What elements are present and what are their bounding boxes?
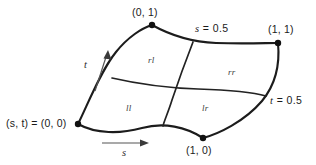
label-cell-lower-left: ll — [126, 104, 132, 113]
label-cell-lower-right: lr — [202, 104, 209, 113]
s-axis-arrow-head — [140, 140, 149, 147]
t-axis-arrow-shaft — [95, 57, 106, 91]
label-isoline-s-half: s = 0.5 — [195, 23, 228, 35]
label-cell-upper-right: rr — [228, 68, 236, 77]
label-cell-upper-left: rl — [148, 56, 155, 65]
label-origin: (s, t) = (0, 0) — [6, 118, 66, 129]
t-axis-arrow-head — [104, 50, 112, 60]
label-axis-t: t — [84, 60, 87, 71]
label-corner-bottom-right: (1, 0) — [186, 145, 212, 156]
isoline-t-half — [112, 78, 266, 96]
vertex-dot-top-right — [275, 40, 281, 46]
label-corner-top-left: (0, 1) — [132, 7, 158, 18]
isoline-s-half — [163, 42, 193, 126]
vertex-dot-top-left — [149, 22, 155, 28]
patch-edge-bottom — [78, 124, 203, 138]
label-corner-top-right: (1, 1) — [268, 24, 294, 35]
patch-subdivision-figure: (s, t) = (0, 0) (0, 1) (1, 1) (1, 0) s =… — [0, 0, 316, 165]
vertex-dot-origin — [75, 121, 81, 127]
vertex-dot-bottom-right — [200, 135, 206, 141]
label-isoline-t-half: t = 0.5 — [270, 95, 302, 107]
label-axis-s: s — [122, 148, 126, 159]
patch-edge-left — [78, 25, 152, 124]
